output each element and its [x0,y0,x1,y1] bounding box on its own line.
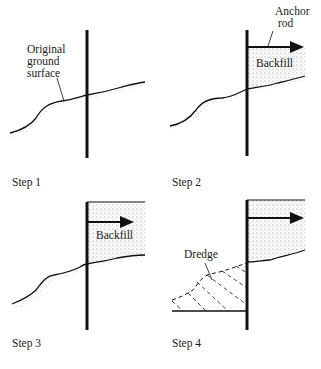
dredge-label-leader [205,263,212,280]
label-line: surface [27,67,65,79]
panel-step-2 [170,30,305,156]
label-line: ground [27,55,65,67]
panel-step-4 [172,200,305,330]
anchor-label-leader [268,31,273,46]
label-line: rod [275,17,310,29]
original-ground-dashed-line [172,263,247,300]
backfill-label: Backfill [256,57,293,69]
ground-label-leader [57,78,64,101]
label-line: Original [27,43,65,55]
ground-stipple [12,255,145,309]
anchor-rod-label: Anchor rod [275,5,310,29]
step-2-label: Step 2 [172,176,201,188]
panel-step-3 [12,202,145,330]
dredged-zone-hatching [172,266,247,311]
step-1-label: Step 1 [12,176,41,188]
ground-stipple [170,76,305,130]
label-line: Anchor [275,5,310,17]
step-3-label: Step 3 [12,337,41,349]
ground-stipple [10,82,145,137]
dredge-label: Dredge [184,248,218,260]
original-ground-surface-label: Original ground surface [27,43,65,79]
step-4-label: Step 4 [172,337,201,349]
backfill-label: Backfill [96,229,133,241]
